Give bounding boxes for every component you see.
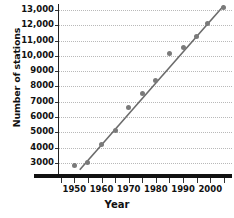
- x-axis-tick: [74, 178, 75, 183]
- x-axis-bar: [34, 174, 232, 178]
- y-axis-line: [58, 4, 59, 175]
- x-axis-tick: [142, 178, 143, 183]
- x-axis-tick: [102, 178, 103, 183]
- y-axis-tick-label: 6000: [30, 111, 54, 121]
- x-axis-title: Year: [0, 199, 234, 210]
- y-axis-tick-label: 4000: [30, 142, 54, 152]
- data-point: [181, 45, 186, 50]
- x-axis-tick: [183, 178, 184, 183]
- data-point: [140, 91, 145, 96]
- y-axis-tick: [55, 163, 58, 164]
- y-axis-tick-label: 5000: [30, 126, 54, 136]
- y-axis-tick: [55, 25, 58, 26]
- y-axis-tick-label: 12,000: [21, 19, 54, 29]
- y-axis-tick: [55, 86, 58, 87]
- x-axis-tick-label: 1960: [90, 184, 114, 194]
- plot-area: [58, 4, 232, 172]
- x-axis-tick: [61, 178, 62, 183]
- x-axis-tick-label: 1950: [62, 184, 86, 194]
- trend-line: [58, 4, 232, 172]
- data-point: [99, 142, 104, 147]
- y-axis-title: Number of stations: [11, 18, 22, 138]
- x-axis-tick-label: 1980: [144, 184, 168, 194]
- x-axis-tick: [156, 178, 157, 183]
- y-axis-tick-label: 3000: [30, 157, 54, 167]
- x-axis-tick-label: 2000: [198, 184, 222, 194]
- y-axis-tick-label: 8000: [30, 80, 54, 90]
- y-axis-tick-label: 11,000: [21, 35, 54, 45]
- y-axis-tick: [55, 71, 58, 72]
- x-axis-tick: [224, 178, 225, 183]
- data-point: [126, 105, 131, 110]
- x-axis-tick: [88, 178, 89, 183]
- data-point: [194, 34, 199, 39]
- y-axis-tick-label: 13,000: [21, 4, 54, 14]
- y-axis-tick-label: 10,000: [21, 50, 54, 60]
- chart-container: Number of stations 300040005000600070008…: [0, 0, 234, 218]
- data-point: [113, 128, 118, 133]
- y-axis-tick-label: 9000: [30, 65, 54, 75]
- y-axis-tick: [55, 102, 58, 103]
- x-axis-tick: [129, 178, 130, 183]
- y-axis-tick-label: 7000: [30, 96, 54, 106]
- y-axis-tick: [55, 41, 58, 42]
- x-axis-tick: [197, 178, 198, 183]
- x-axis-tick: [210, 178, 211, 183]
- y-axis-tick: [55, 148, 58, 149]
- x-axis-tick: [169, 178, 170, 183]
- y-axis-tick: [55, 56, 58, 57]
- y-axis-tick: [55, 117, 58, 118]
- y-axis-tick: [55, 10, 58, 11]
- x-axis-tick-label: 1970: [117, 184, 141, 194]
- x-axis-tick: [115, 178, 116, 183]
- y-axis-tick: [55, 132, 58, 133]
- x-axis-tick-label: 1990: [171, 184, 195, 194]
